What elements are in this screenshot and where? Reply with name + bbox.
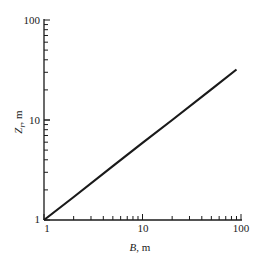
x-tick-labels: 1 10 100 [44, 222, 250, 234]
x-axis-label: B, m [130, 241, 151, 253]
y-axis-unit: , m [12, 110, 24, 125]
x-tick-label-1: 1 [44, 222, 50, 234]
x-ticks [44, 214, 241, 220]
y-axis-label: Zr, m [12, 110, 27, 134]
log-log-chart: 100 10 1 1 10 100 B, m Zr, m [0, 0, 265, 260]
x-axis-unit: , m [136, 241, 151, 253]
axes [44, 19, 242, 220]
y-tick-label-1: 1 [35, 213, 41, 225]
x-tick-label-10: 10 [138, 222, 150, 234]
y-ticks [44, 20, 50, 220]
x-tick-label-100: 100 [233, 222, 250, 234]
y-tick-label-10: 10 [29, 114, 41, 126]
y-tick-label-100: 100 [24, 14, 41, 26]
y-tick-labels: 100 10 1 [24, 14, 41, 225]
data-line [44, 70, 237, 221]
